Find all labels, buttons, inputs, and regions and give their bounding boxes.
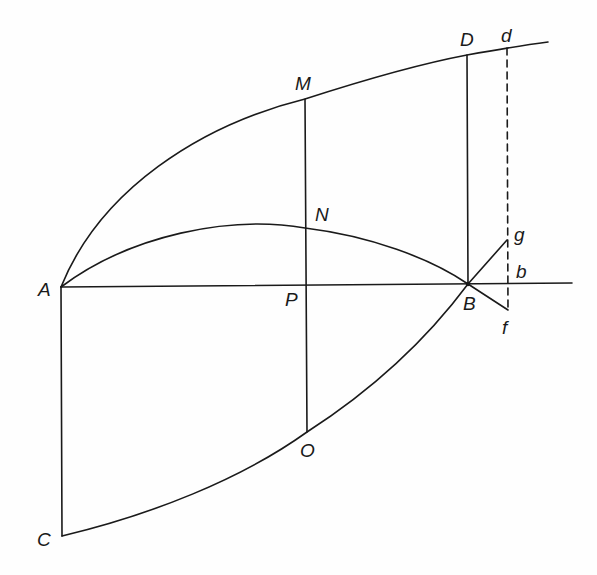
label-N: N [315,204,329,225]
point-B-dot [466,282,470,286]
label-B: B [463,293,476,314]
geometry-diagram: A C M N P O D d g b B f t [0,0,597,575]
label-A: A [37,279,51,300]
label-O: O [300,440,315,461]
label-d: d [501,25,513,46]
label-C: C [37,529,51,550]
label-M: M [295,73,311,94]
diagram-svg: A C M N P O D d g b B f t [0,0,597,575]
middle-arc [61,224,468,287]
dashed-line-df [507,48,508,310]
label-g: g [514,224,525,245]
label-P: P [285,289,298,310]
vertical-line-DB [467,55,468,284]
vertical-line-MO [305,99,307,432]
label-f: f [502,317,509,338]
label-b: b [516,261,527,282]
horizontal-line-AB [61,283,572,287]
vertical-line-AC [61,287,62,536]
label-D: D [460,29,474,50]
